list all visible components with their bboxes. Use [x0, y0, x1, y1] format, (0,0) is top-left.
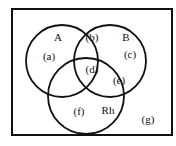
set-a-label: A	[54, 31, 62, 43]
region-g-label: (g)	[142, 113, 155, 126]
region-a-label: (a)	[43, 50, 56, 63]
region-c-label: (c)	[124, 48, 137, 61]
region-d-label: (d)	[86, 63, 99, 76]
set-rh-label: Rh	[102, 104, 115, 116]
region-b-label: (b)	[86, 31, 99, 44]
region-f-label: (f)	[74, 105, 85, 118]
region-e-label: (e)	[113, 74, 126, 87]
set-b-label: B	[122, 31, 129, 43]
venn-diagram: A B Rh (a) (b) (c) (d) (e) (f) (g)	[0, 0, 176, 146]
